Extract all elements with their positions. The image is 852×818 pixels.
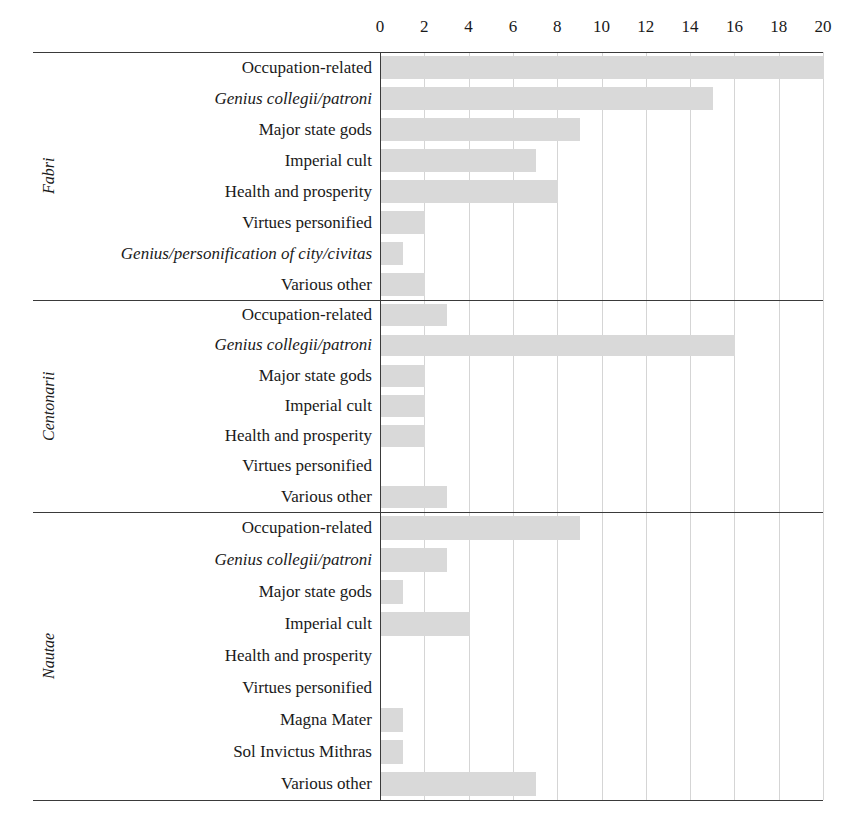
bar [381,118,580,140]
bar-row: Magna Mater [0,704,852,736]
x-axis-tick-label: 10 [593,14,610,40]
bar [381,612,470,635]
bar-row: Occupation-related [0,512,852,544]
bar-row: Health and prosperity [0,421,852,451]
bar [381,149,536,171]
bar-row: Various other [0,482,852,512]
x-axis-tick-label: 20 [815,14,832,40]
bar [381,740,403,763]
bar [381,211,425,233]
bar-row: Health and prosperity [0,640,852,672]
bar [381,395,425,417]
category-label: Health and prosperity [64,421,372,451]
bar [381,486,447,508]
bar [381,180,558,202]
grouped-horizontal-bar-chart: 02468101214161820 FabriOccupation-relate… [0,0,852,818]
x-axis-tick-label: 8 [553,14,562,40]
bar [381,304,447,326]
category-label: Occupation-related [64,300,372,330]
x-axis-tick-label: 0 [376,14,385,40]
group-separator-rule [33,800,823,801]
bar [381,242,403,264]
bar-row: Genius collegii/patroni [0,83,852,114]
bar-row: Virtues personified [0,207,852,238]
bar [381,548,447,571]
x-axis-tick-label: 4 [464,14,473,40]
x-axis-tick-label: 16 [726,14,743,40]
bar-row: Virtues personified [0,672,852,704]
bar-row: Sol Invictus Mithras [0,736,852,768]
category-label: Genius collegii/patroni [64,544,372,576]
x-axis-tick-label: 14 [682,14,699,40]
bar-row: Various other [0,768,852,800]
category-label: Genius/personification of city/civitas [64,238,372,269]
bar-row: Major state gods [0,114,852,145]
x-axis-tick-label: 12 [637,14,654,40]
category-label: Occupation-related [64,52,372,83]
bar-row: Genius collegii/patroni [0,544,852,576]
category-label: Magna Mater [64,704,372,736]
bar-row: Occupation-related [0,300,852,330]
bar-row: Imperial cult [0,608,852,640]
bar [381,425,425,447]
category-label: Sol Invictus Mithras [64,736,372,768]
bar-row: Health and prosperity [0,176,852,207]
bar [381,273,425,295]
category-label: Genius collegii/patroni [64,330,372,360]
bar-group-centonarii: CentonariiOccupation-relatedGenius colle… [0,300,852,512]
bar-row: Imperial cult [0,391,852,421]
category-label: Imperial cult [64,391,372,421]
category-label: Imperial cult [64,608,372,640]
category-label: Imperial cult [64,145,372,176]
category-label: Health and prosperity [64,640,372,672]
bar [381,365,425,387]
bar [381,335,735,357]
bar [381,580,403,603]
bar-row: Occupation-related [0,52,852,83]
bar [381,772,536,795]
category-label: Major state gods [64,576,372,608]
bar-group-nautae: NautaeOccupation-relatedGenius collegii/… [0,512,852,800]
bar-row: Various other [0,269,852,300]
category-label: Genius collegii/patroni [64,83,372,114]
bar-row: Major state gods [0,576,852,608]
bar-row: Genius/personification of city/civitas [0,238,852,269]
bar-row: Imperial cult [0,145,852,176]
bar-row: Genius collegii/patroni [0,330,852,360]
x-axis-tick-labels: 02468101214161820 [0,14,852,40]
bar-row: Virtues personified [0,451,852,481]
category-label: Major state gods [64,361,372,391]
category-label: Major state gods [64,114,372,145]
category-label: Health and prosperity [64,176,372,207]
category-label: Various other [64,269,372,300]
x-axis-tick-label: 18 [770,14,787,40]
x-axis-tick-label: 6 [509,14,518,40]
bar-group-fabri: FabriOccupation-relatedGenius collegii/p… [0,52,852,300]
category-label: Virtues personified [64,672,372,704]
bar [381,87,713,109]
category-label: Virtues personified [64,451,372,481]
x-axis-tick-label: 2 [420,14,429,40]
category-label: Various other [64,482,372,512]
category-label: Virtues personified [64,207,372,238]
bar [381,708,403,731]
category-label: Occupation-related [64,512,372,544]
bar-row: Major state gods [0,361,852,391]
bar [381,516,580,539]
bar [381,56,824,78]
category-label: Various other [64,768,372,800]
